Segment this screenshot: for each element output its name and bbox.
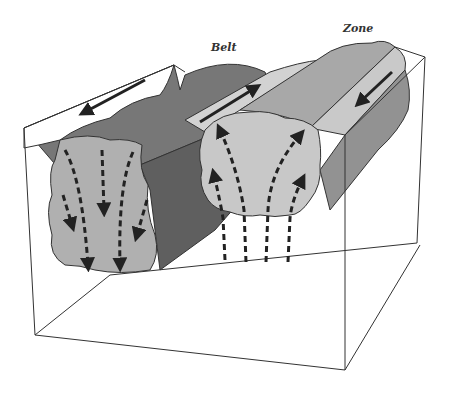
zone-label: Zone bbox=[343, 22, 373, 35]
block-diagram bbox=[0, 0, 449, 396]
belt-label: Belt bbox=[211, 41, 237, 54]
